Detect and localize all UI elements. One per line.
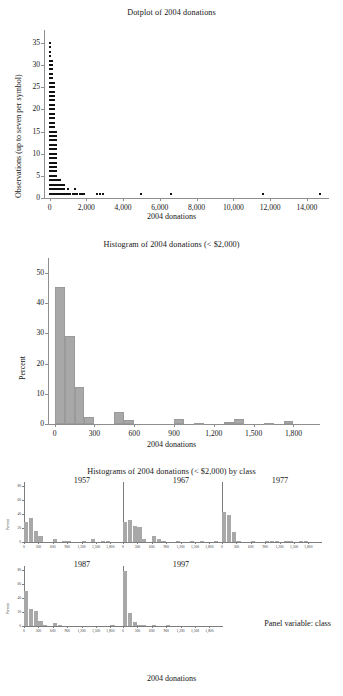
dotplot-plot-area: 02,0004,0006,0008,00010,00012,00014,0000… — [44, 34, 329, 198]
panel-y-tick-label: 60 — [8, 582, 21, 586]
panel-bar — [82, 541, 86, 542]
dotplot-dot — [99, 193, 101, 195]
dotplot-dot — [55, 157, 57, 159]
dotplot-title: Dotplot of 2004 donations — [0, 8, 343, 17]
histogram-y-tick — [45, 333, 48, 334]
panel-bar — [62, 541, 66, 542]
histogram-y-tick-label: 40 — [22, 298, 44, 307]
dotplot-y-tick — [41, 132, 44, 133]
panel-y-tick-label: 60 — [8, 498, 21, 502]
histogram-figure: Histogram of 2004 donations (< $2,000) P… — [0, 232, 343, 460]
dotplot-dot — [51, 64, 53, 66]
panel-bar — [128, 520, 132, 542]
histogram-plot-area: 03006009001,2001,5001,80001020304050 — [48, 264, 320, 424]
panel-histograms-figure: Histograms of 2004 donations (< $2,000) … — [0, 462, 343, 696]
histogram-x-tick — [254, 424, 255, 427]
dotplot-dot — [49, 42, 51, 44]
dotplot-dot — [53, 82, 55, 84]
dotplot-y-tick-label: 0 — [16, 193, 40, 202]
dotplot-dot — [51, 60, 53, 62]
panel-label-1967: 1967 — [133, 476, 229, 485]
panel-bar — [29, 609, 33, 626]
dotplot-dot — [96, 193, 98, 195]
dotplot-dot — [51, 73, 53, 75]
panel-bar — [275, 541, 279, 542]
histogram-y-tick-label: 10 — [22, 389, 44, 398]
panel-plot-area: 1957020406080Percent03006009001,2001,500… — [0, 480, 343, 672]
panel-bar — [200, 541, 204, 542]
panel-bar — [137, 527, 141, 542]
dotplot-y-axis — [44, 30, 45, 198]
histogram-y-tick — [45, 424, 48, 425]
dotplot-x-tick — [50, 198, 51, 201]
panel-bar — [106, 541, 110, 542]
histogram-y-tick — [45, 394, 48, 395]
dotplot-dot — [53, 95, 55, 97]
panel-bar — [43, 625, 47, 626]
histogram-title: Histogram of 2004 donations (< $2,000) — [0, 240, 343, 249]
histogram-bar — [84, 417, 94, 424]
panel-bar — [58, 625, 62, 626]
dotplot-dot — [102, 193, 104, 195]
dotplot-dot — [53, 126, 55, 128]
dotplot-dot — [63, 188, 65, 190]
histogram-bar — [55, 287, 65, 424]
panel-bar — [123, 522, 127, 542]
dotplot-dot — [55, 139, 57, 141]
panel-bar — [110, 625, 114, 626]
histogram-bar — [284, 421, 294, 424]
panel-y-tick — [22, 486, 24, 487]
dotplot-dot — [51, 68, 53, 70]
panel-bar — [289, 541, 293, 542]
dotplot-dot — [53, 99, 55, 101]
panel-bar — [34, 531, 38, 542]
panel-bar — [176, 541, 180, 542]
histogram-x-tick — [174, 424, 175, 427]
panel-bar — [214, 541, 218, 542]
panel-bar — [24, 522, 28, 542]
dotplot-y-tick-label: 25 — [16, 82, 40, 91]
figure-page: Dotplot of 2004 donations Observations (… — [0, 0, 343, 696]
dotplot-y-tick — [41, 109, 44, 110]
panel-y-tick-label: 80 — [8, 568, 21, 572]
histogram-bar — [194, 423, 204, 425]
dotplot-dot — [55, 170, 57, 172]
histogram-y-tick — [45, 273, 48, 274]
panel-bar — [152, 625, 156, 626]
dotplot-dot — [72, 193, 74, 195]
histogram-x-tick-label: 300 — [72, 429, 116, 438]
panel-bar — [34, 611, 38, 626]
dotplot-dot — [55, 131, 57, 133]
dotplot-dot — [55, 144, 57, 146]
panel-y-tick-label: 80 — [8, 484, 21, 488]
panel-y-tick-label: 40 — [8, 512, 21, 516]
histogram-x-tick-label: 600 — [112, 429, 156, 438]
panel-bar — [232, 532, 236, 543]
panel-y-tick-label: 0 — [8, 624, 21, 628]
panel-label-1977: 1977 — [232, 476, 328, 485]
dotplot-dot — [55, 153, 57, 155]
dotplot-dot — [53, 113, 55, 115]
histogram-x-axis — [48, 424, 320, 425]
panel-bar — [299, 541, 303, 542]
dotplot-y-tick-label: 10 — [16, 149, 40, 158]
panel-bar — [190, 541, 194, 542]
panel-bar — [284, 541, 288, 542]
dotplot-y-tick-label: 20 — [16, 104, 40, 113]
panel-bar — [38, 621, 42, 626]
panel-label-1997: 1997 — [133, 560, 229, 569]
panel-bar — [123, 571, 127, 626]
dotplot-dot — [49, 46, 51, 48]
dotplot-dot — [51, 77, 53, 79]
dotplot-x-axis-label: 2004 donations — [0, 212, 343, 221]
dotplot-dot — [55, 175, 57, 177]
dotplot-x-tick — [160, 198, 161, 201]
histogram-x-tick-label: 900 — [152, 429, 196, 438]
histogram-bar — [75, 387, 85, 424]
panel-y-tick — [22, 584, 24, 585]
panel-bar — [53, 539, 57, 542]
panel-bar — [304, 541, 308, 542]
histogram-y-tick-label: 20 — [22, 359, 44, 368]
panel-bar — [166, 625, 170, 626]
dotplot-dot — [49, 51, 51, 53]
